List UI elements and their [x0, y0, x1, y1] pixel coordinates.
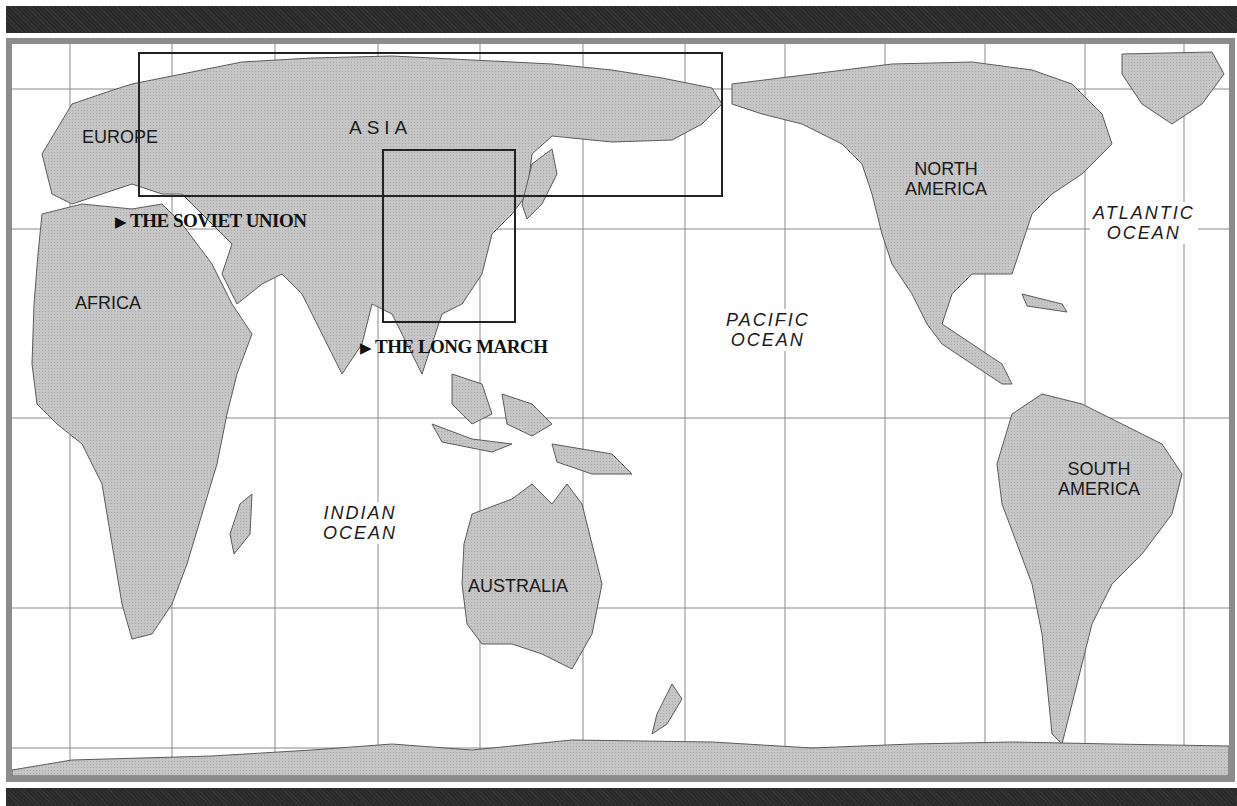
- atlantic-ocean-label: ATLANTIC OCEAN: [1090, 202, 1198, 244]
- africa-landmass: [32, 204, 252, 639]
- soviet-union-link[interactable]: ▶THE SOVIET UNION: [115, 210, 306, 232]
- atlantic-ocean-label-line2: OCEAN: [1093, 223, 1195, 243]
- atlantic-ocean-label-line1: ATLANTIC: [1093, 203, 1195, 223]
- pacific-ocean-label-line1: PACIFIC: [726, 310, 810, 330]
- asia-label: ASIA: [349, 117, 412, 138]
- top-banner: [6, 6, 1237, 33]
- north-america-label-line1: NORTH: [905, 159, 987, 179]
- bottom-banner: [6, 788, 1237, 806]
- play-arrow-icon: ▶: [115, 213, 126, 231]
- play-arrow-icon: ▶: [360, 339, 371, 357]
- world-map: EUROPE ASIA AFRICA NORTH AMERICA SOUTH A…: [6, 38, 1235, 782]
- indian-ocean-label: INDIAN OCEAN: [320, 502, 400, 544]
- pacific-ocean-label-line2: OCEAN: [726, 330, 810, 350]
- long-march-link[interactable]: ▶THE LONG MARCH: [360, 336, 548, 358]
- south-america-label: SOUTH AMERICA: [1058, 459, 1140, 499]
- south-america-landmass: [997, 394, 1182, 744]
- soviet-union-link-label: THE SOVIET UNION: [130, 210, 306, 231]
- indian-ocean-label-line1: INDIAN: [323, 503, 397, 523]
- south-america-label-line1: SOUTH: [1058, 459, 1140, 479]
- north-america-label-line2: AMERICA: [905, 179, 987, 199]
- north-america-label: NORTH AMERICA: [905, 159, 987, 199]
- long-march-region-box[interactable]: [382, 149, 516, 323]
- pacific-ocean-label: PACIFIC OCEAN: [723, 309, 813, 351]
- antarctica-landmass: [12, 740, 1229, 776]
- europe-label: EUROPE: [82, 127, 158, 147]
- australia-label: AUSTRALIA: [468, 576, 568, 596]
- south-america-label-line2: AMERICA: [1058, 479, 1140, 499]
- indian-ocean-label-line2: OCEAN: [323, 523, 397, 543]
- long-march-link-label: THE LONG MARCH: [375, 336, 547, 357]
- africa-label: AFRICA: [75, 293, 141, 313]
